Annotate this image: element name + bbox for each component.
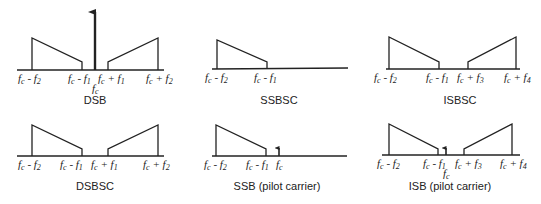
panel-title: DSB <box>84 94 107 106</box>
lower-sideband <box>217 40 267 69</box>
label-fc-minus-f2: fc - f2 <box>205 71 228 85</box>
label-fc-minus-f2: fc - f2 <box>18 72 41 86</box>
label-fc-minus-f1: fc - f1 <box>60 158 83 172</box>
lower-sideband <box>389 124 438 155</box>
panel-title: DSBSC <box>76 180 114 192</box>
label-fc: fc <box>443 167 450 181</box>
label-fc: fc <box>276 158 283 172</box>
panel-title: ISBSC <box>443 94 476 106</box>
label-fc-plus-f2: fc + f2 <box>146 72 173 86</box>
label-fc-minus-f1: fc - f1 <box>426 71 449 85</box>
upper-sideband <box>108 38 158 70</box>
label-fc-minus-f2: fc - f2 <box>374 71 397 85</box>
lower-sideband <box>389 37 439 69</box>
panel-title: ISB (pilot carrier) <box>409 180 492 192</box>
panel-dsb: fc - f2 fc - f1 fc + f1 fc + f2 fc DSB <box>17 12 173 106</box>
panel-isbsc: fc - f2 fc - f1 fc + f3 fc + f4 ISBSC <box>374 37 531 106</box>
upper-sideband <box>108 125 158 156</box>
panel-isb-pilot: fc - f2 fc - f1 fc + f3 fc + f4 fc ISB (… <box>377 124 527 192</box>
label-fc-minus-f1: fc - f1 <box>68 72 91 86</box>
modulation-spectra-diagram: fc - f2 fc - f1 fc + f1 fc + f2 fc DSB f… <box>0 0 541 204</box>
label-fc-plus-f3: fc + f3 <box>455 157 482 171</box>
label-fc-minus-f2: fc - f2 <box>377 157 400 171</box>
panel-ssb-pilot: fc - f2 fc - f1 fc SSB (pilot carrier) <box>204 125 347 192</box>
label-fc-plus-f1: fc + f1 <box>98 72 125 86</box>
label-fc-minus-f2: fc - f2 <box>18 158 41 172</box>
label-fc-minus-f1: fc - f1 <box>254 71 277 85</box>
lower-sideband <box>32 125 82 156</box>
upper-sideband <box>468 37 516 69</box>
panel-dsbsc: fc - f2 fc - f1 fc + f1 fc + f2 DSBSC <box>17 125 170 192</box>
frequency-axis <box>212 68 348 69</box>
upper-sideband <box>464 124 512 155</box>
label-fc-plus-f2: fc + f2 <box>143 158 170 172</box>
label-fc-plus-f3: fc + f3 <box>457 71 484 85</box>
lower-sideband <box>216 125 266 156</box>
panel-ssbsc: fc - f2 fc - f1 SSBSC <box>205 40 348 106</box>
label-fc-plus-f4: fc + f4 <box>504 71 531 85</box>
label-fc-plus-f4: fc + f4 <box>500 157 527 171</box>
label-fc-minus-f2: fc - f2 <box>204 158 227 172</box>
label-fc-plus-f1: fc + f1 <box>91 158 118 172</box>
panel-title: SSBSC <box>260 94 297 106</box>
panel-title: SSB (pilot carrier) <box>234 180 321 192</box>
label-fc-minus-f1: fc - f1 <box>246 158 269 172</box>
lower-sideband <box>32 38 82 70</box>
